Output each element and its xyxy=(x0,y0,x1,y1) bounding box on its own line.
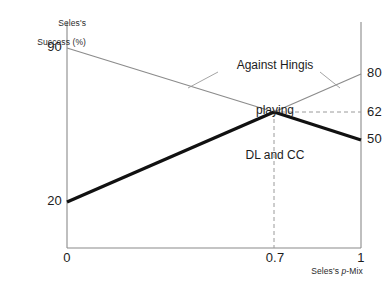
annotation-line-1: Against Hingis xyxy=(206,58,344,73)
chart-figure: Seles's Success (%) 90 20 80 62 50 0 0.7… xyxy=(0,0,392,292)
y-right-tick-label-62: 62 xyxy=(367,105,382,120)
x-tick-label-07: 0.7 xyxy=(262,251,288,266)
x-axis-title-prefix: Seles's xyxy=(311,266,341,276)
x-tick-label-0: 0 xyxy=(58,251,76,266)
y-tick-label-90: 90 xyxy=(38,40,62,55)
annotation-against-hingis: Against Hingis playing DL and CC xyxy=(206,28,344,193)
y-axis-title-line1: Seles's xyxy=(58,18,86,28)
annotation-line-3: DL and CC xyxy=(206,148,344,163)
x-tick-label-1: 1 xyxy=(352,251,370,266)
y-right-tick-label-50: 50 xyxy=(367,132,382,147)
annotation-line-2: playing xyxy=(206,103,344,118)
y-right-tick-label-80: 80 xyxy=(367,66,382,81)
x-axis-title-suffix: -Mix xyxy=(346,266,362,276)
y-tick-label-20: 20 xyxy=(38,194,62,209)
x-axis-title: Seles's p-Mix xyxy=(296,267,378,277)
